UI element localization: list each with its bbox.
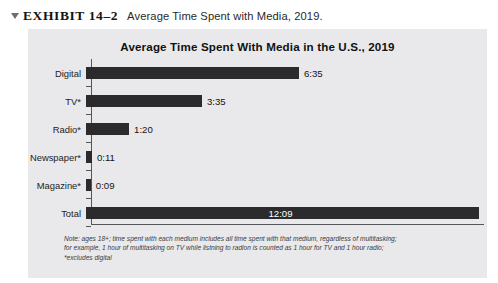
triangle-down-icon	[11, 13, 19, 19]
bar-value-label: 6:35	[304, 68, 323, 79]
bar-row: Newspaper*0:11	[28, 143, 487, 171]
bar-track: 0:09	[86, 171, 487, 199]
bar-value-label: 3:35	[207, 96, 226, 107]
bar-track: 3:35	[86, 87, 487, 115]
bar	[86, 179, 91, 191]
bar-value-label: 1:20	[134, 124, 153, 135]
bar	[86, 151, 92, 163]
bar-row: TV*3:35	[28, 87, 487, 115]
bar-value-label: 0:11	[97, 152, 115, 163]
bar-category-label: TV*	[28, 96, 86, 107]
bar-category-label: Newspaper*	[28, 152, 86, 163]
bar	[86, 95, 202, 107]
bar-chart: Digital6:35TV*3:35Radio*1:20Newspaper*0:…	[28, 59, 487, 227]
chart-footnote: Note: ages 18+; time spent with each med…	[64, 234, 472, 262]
bar-category-label: Total	[28, 208, 86, 219]
bar-track: 1:20	[86, 115, 487, 143]
bar-row: Magazine*0:09	[28, 171, 487, 199]
footnote-line-2: for example, 1 hour of multitasking on T…	[64, 243, 472, 252]
bar-row: Total12:09	[28, 199, 487, 227]
bar	[86, 67, 299, 79]
footnote-line-1: Note: ages 18+; time spent with each med…	[64, 234, 472, 243]
bar-value-label: 0:09	[96, 180, 115, 191]
bar-track: 0:11	[86, 143, 487, 171]
chart-title: Average Time Spent With Media in the U.S…	[28, 40, 487, 53]
bar-category-label: Radio*	[28, 124, 86, 135]
bar-track: 6:35	[86, 59, 487, 87]
footnote-line-3: *excludes digital	[64, 253, 472, 262]
bar-row: Radio*1:20	[28, 115, 487, 143]
exhibit-label: EXHIBIT 14–2	[23, 8, 118, 24]
bar-row: Digital6:35	[28, 59, 487, 87]
bar-value-label: 12:09	[269, 208, 293, 219]
bar-category-label: Digital	[28, 68, 86, 79]
exhibit-header: EXHIBIT 14–2 Average Time Spent with Med…	[11, 8, 323, 24]
exhibit-caption: Average Time Spent with Media, 2019.	[127, 10, 323, 22]
bar	[86, 123, 129, 135]
figure-panel: Average Time Spent With Media in the U.S…	[28, 29, 487, 278]
axis-tick	[86, 226, 91, 227]
bar-track: 12:09	[86, 199, 487, 227]
bar-category-label: Magazine*	[28, 180, 86, 191]
